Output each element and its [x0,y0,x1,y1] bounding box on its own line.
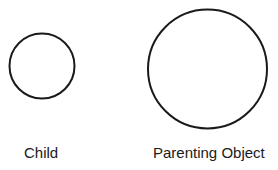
parent-circle [148,10,267,129]
child-circle [10,34,75,99]
child-label: Child [24,145,58,160]
parent-label: Parenting Object [153,145,265,160]
